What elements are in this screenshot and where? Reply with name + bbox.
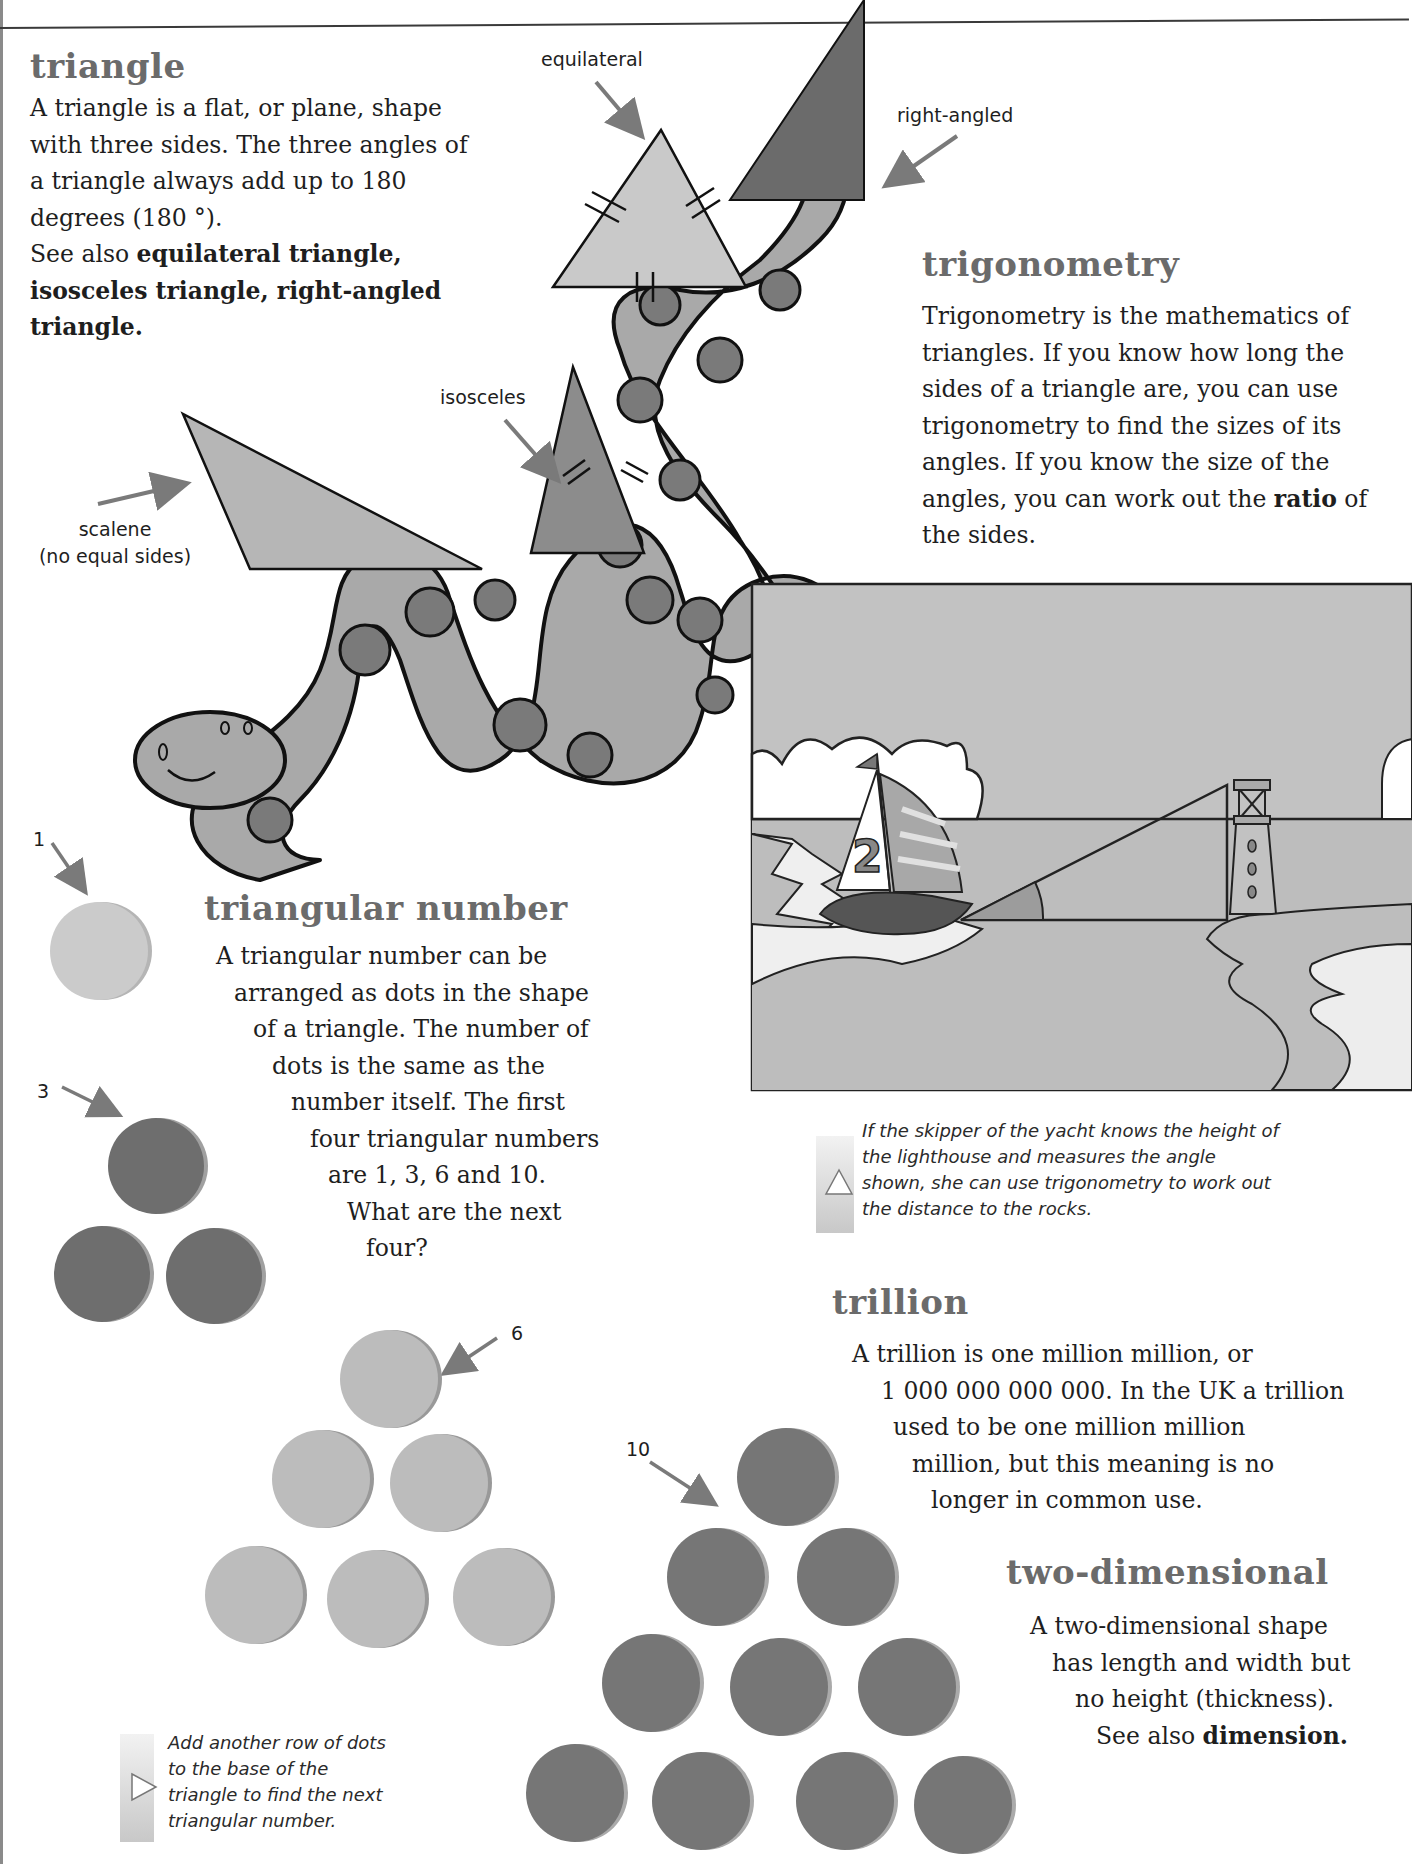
- dot-ten: [652, 1752, 750, 1850]
- triangle-right-icon: [130, 1772, 160, 1802]
- dot-ten: [914, 1756, 1012, 1854]
- dot-six: [453, 1548, 551, 1646]
- dot-six: [340, 1330, 438, 1428]
- dot-ten: [602, 1634, 700, 1732]
- entry-body-two-dimensional: A two-dimensional shape has length and w…: [1030, 1608, 1350, 1754]
- text-line: longer in common use.: [931, 1482, 1344, 1519]
- text-line: no height (thickness).: [1075, 1681, 1350, 1718]
- dot-ten: [796, 1752, 894, 1850]
- dot-three: [108, 1118, 204, 1214]
- entry-body-trillion: A trillion is one million million, or 1 …: [852, 1336, 1344, 1519]
- caption-line: triangle to find the next: [168, 1782, 386, 1808]
- caption-line: Add another row of dots: [168, 1730, 386, 1756]
- caption-line: triangular number.: [168, 1808, 386, 1834]
- dot-ten: [797, 1528, 895, 1626]
- entry-heading-trillion: trillion: [832, 1282, 969, 1322]
- see-also-line: See also dimension.: [1096, 1718, 1350, 1755]
- dot-three: [166, 1228, 262, 1324]
- dot-ten: [737, 1428, 835, 1526]
- text-line: has length and width but: [1052, 1645, 1350, 1682]
- dot-ten: [730, 1638, 828, 1736]
- caption-line: to the base of the: [168, 1756, 386, 1782]
- text-line: A two-dimensional shape: [1030, 1608, 1350, 1645]
- dot-ten: [858, 1638, 956, 1736]
- text-line: A trillion is one million million, or: [852, 1336, 1344, 1373]
- dot-three: [54, 1226, 150, 1322]
- see-also-prefix: See also: [1096, 1722, 1203, 1750]
- caption-triangular-tip: Add another row of dots to the base of t…: [168, 1730, 386, 1834]
- see-also-link-dimension[interactable]: dimension.: [1203, 1722, 1348, 1750]
- dot-one: [50, 902, 148, 1000]
- dot-ten: [526, 1744, 624, 1842]
- text-line: used to be one million million: [893, 1409, 1344, 1446]
- text-line: million, but this meaning is no: [912, 1446, 1344, 1483]
- dot-six: [272, 1430, 370, 1528]
- dot-six: [390, 1434, 488, 1532]
- dot-six: [205, 1546, 303, 1644]
- dot-ten: [667, 1528, 765, 1626]
- text-line: 1 000 000 000 000. In the UK a trillion: [881, 1373, 1344, 1410]
- entry-heading-two-dimensional: two-dimensional: [1006, 1552, 1329, 1592]
- dot-six: [327, 1550, 425, 1648]
